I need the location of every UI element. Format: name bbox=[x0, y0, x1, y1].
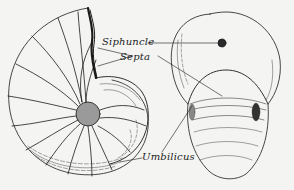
label-siphuncle: Siphuncle bbox=[102, 36, 154, 47]
left-shell-outline bbox=[9, 8, 149, 175]
nautilus-diagram: Siphuncle Septa Umbilicus bbox=[0, 0, 294, 190]
label-umbilicus: Umbilicus bbox=[142, 151, 195, 162]
label-septa: Septa bbox=[120, 51, 150, 62]
